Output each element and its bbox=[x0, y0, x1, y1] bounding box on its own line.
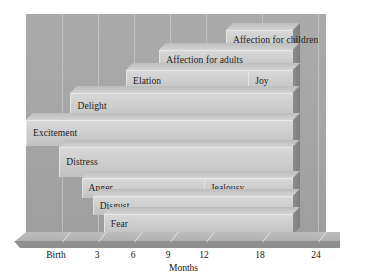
x-tick-18: 18 bbox=[255, 250, 265, 260]
bar-label: Fear bbox=[111, 219, 128, 229]
bar-front-face bbox=[104, 214, 293, 234]
bar-top-face bbox=[59, 140, 299, 147]
x-tick-9: 9 bbox=[166, 250, 171, 260]
x-axis-title: Months bbox=[0, 263, 367, 273]
bar-label: Delight bbox=[77, 101, 106, 111]
bar-top-face bbox=[248, 63, 299, 70]
bar-fear[interactable]: Fear bbox=[104, 214, 293, 234]
x-tick-6: 6 bbox=[131, 250, 136, 260]
bar-top-face bbox=[26, 113, 299, 120]
gridline bbox=[318, 14, 319, 236]
bar-label: Distress bbox=[66, 157, 97, 167]
x-tick-12: 12 bbox=[199, 250, 209, 260]
bar-label: Joy bbox=[255, 76, 269, 86]
bar-label: Excitement bbox=[33, 128, 77, 138]
bar-top-face bbox=[226, 23, 299, 30]
floor-front-face bbox=[14, 241, 340, 248]
bar-top-face bbox=[70, 86, 299, 93]
bar-top-face bbox=[93, 189, 300, 196]
x-tick-3: 3 bbox=[95, 250, 100, 260]
bar-top-face bbox=[104, 207, 300, 214]
bar-label: Elation bbox=[133, 76, 161, 86]
bar-top-face bbox=[204, 171, 300, 178]
axis-floor bbox=[14, 232, 340, 248]
bar-top-face bbox=[159, 43, 299, 50]
x-tick-birth: Birth bbox=[46, 250, 66, 260]
emotional-development-chart: Affection for childrenAffection for adul… bbox=[0, 0, 367, 280]
x-tick-24: 24 bbox=[311, 250, 321, 260]
